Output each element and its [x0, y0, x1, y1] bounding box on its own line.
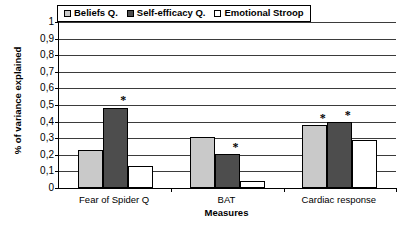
x-axis-tick-label: Fear of Spider Q: [79, 194, 149, 205]
legend-label: Emotional Stroop: [224, 8, 303, 18]
plot-area: ****: [58, 22, 396, 189]
bar: [302, 125, 327, 188]
x-axis-tick-labels: Fear of Spider QBATCardiac response: [58, 194, 395, 208]
bar: [240, 181, 265, 188]
y-axis-tick-label: 0: [48, 183, 54, 193]
bar: [215, 154, 240, 188]
bar: [103, 108, 128, 189]
y-axis-tick-label: 0,8: [40, 50, 54, 60]
bar-chart-figure: % of variance explained 00,10,20,30,40,5…: [0, 0, 408, 232]
legend-swatch-icon: [214, 10, 221, 17]
x-axis-tick-mark: [284, 188, 285, 192]
y-axis-tick-label: 0,6: [40, 83, 54, 93]
bar: [352, 140, 377, 188]
legend-item: Self-efficacy Q.: [127, 8, 206, 18]
y-axis-tick-label: 1: [48, 17, 54, 27]
legend-item: Beliefs Q.: [64, 8, 118, 18]
x-axis-tick-label: Cardiac response: [302, 194, 376, 205]
legend-swatch-icon: [127, 10, 134, 17]
y-axis-tick-label: 0,7: [40, 67, 54, 77]
y-axis-tick-label: 0,3: [40, 133, 54, 143]
y-axis-tick-label: 0,4: [40, 117, 54, 127]
bar: [128, 166, 153, 188]
significance-asterisk: *: [320, 114, 326, 122]
legend-label: Self-efficacy Q.: [137, 8, 206, 18]
y-axis-tick-mark: [55, 188, 59, 189]
y-axis-tick-label: 0,2: [40, 150, 54, 160]
legend-item: Emotional Stroop: [214, 8, 303, 18]
y-axis-tick-label: 0,1: [40, 166, 54, 176]
y-axis-tick-labels: 00,10,20,30,40,50,60,70,80,91: [24, 22, 54, 188]
significance-asterisk: *: [120, 96, 126, 104]
y-axis-tick-label: 0,9: [40, 34, 54, 44]
significance-asterisk: *: [233, 143, 239, 151]
significance-asterisk: *: [345, 111, 351, 119]
bar: [78, 150, 103, 188]
bar: [190, 137, 215, 188]
bar-series-container: ****: [59, 22, 396, 188]
bar: [327, 122, 352, 188]
y-axis-tick-label: 0,5: [40, 100, 54, 110]
x-axis-tick-label: BAT: [218, 194, 236, 205]
x-axis-title: Measures: [58, 207, 395, 218]
x-axis-tick-mark: [396, 188, 397, 192]
y-axis-title: % of variance explained: [12, 21, 23, 181]
legend-swatch-icon: [64, 10, 71, 17]
x-axis-tick-mark: [171, 188, 172, 192]
legend-label: Beliefs Q.: [74, 8, 118, 18]
chart-legend: Beliefs Q.Self-efficacy Q.Emotional Stro…: [57, 5, 311, 22]
